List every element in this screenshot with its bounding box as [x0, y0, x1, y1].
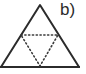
figure-panel-b: b) [0, 0, 86, 74]
panel-label: b) [60, 0, 75, 20]
